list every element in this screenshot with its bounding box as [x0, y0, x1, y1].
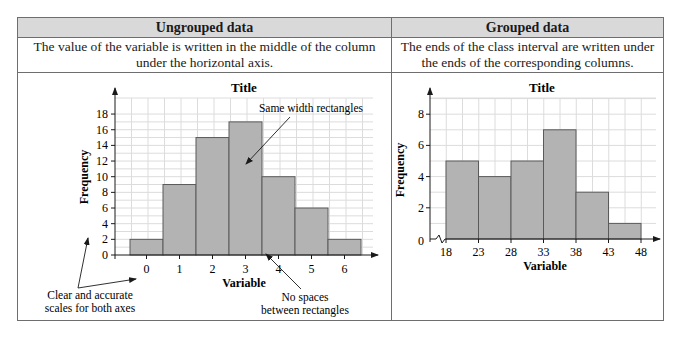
y-tick-label: 18 — [96, 107, 108, 121]
charts-canvas: Title0246810121416180123456VariableFrequ… — [0, 0, 679, 337]
histogram-bar — [576, 192, 609, 239]
x-tick-label: 48 — [635, 245, 647, 259]
annotation-scales-line2: scales for both axes — [45, 302, 136, 314]
y-axis-label: Frequency — [393, 143, 407, 197]
annotation-same-width: Same width rectangles — [259, 102, 364, 115]
y-tick-label: 0 — [418, 234, 424, 248]
y-tick-label: 12 — [96, 154, 108, 168]
x-axis-label: Variable — [222, 276, 266, 290]
x-tick-label: 28 — [505, 245, 517, 259]
x-tick-label: 38 — [570, 245, 582, 259]
annotation-arrow — [78, 279, 136, 288]
histogram-bar — [328, 239, 361, 255]
x-tick-label: 3 — [243, 262, 249, 276]
annotation-arrow — [78, 238, 88, 288]
x-tick-label: 43 — [603, 245, 615, 259]
annotation-no-spaces-line1: No spaces — [282, 291, 329, 304]
chart-title: Title — [529, 80, 555, 95]
y-tick-label: 16 — [96, 123, 108, 137]
annotation-arrow — [266, 254, 301, 289]
histogram-bar — [609, 223, 642, 239]
histogram-bar — [229, 122, 262, 255]
histogram-bar — [511, 161, 544, 239]
histogram-bar — [196, 138, 229, 255]
annotation-scales-line1: Clear and accurate — [47, 289, 133, 301]
histogram-bar — [544, 130, 577, 239]
y-tick-label: 14 — [96, 138, 108, 152]
grouped-histogram: Title0246818232833384348VariableFrequenc… — [393, 80, 660, 273]
x-tick-label: 1 — [177, 262, 183, 276]
y-tick-label: 0 — [102, 248, 108, 262]
histogram-bar — [479, 177, 512, 239]
y-tick-label: 2 — [102, 232, 108, 246]
x-tick-label: 2 — [210, 262, 216, 276]
annotation-no-spaces-line2: between rectangles — [261, 304, 349, 317]
histogram-bar — [295, 208, 328, 255]
x-tick-label: 5 — [309, 262, 315, 276]
y-tick-label: 6 — [418, 138, 424, 152]
y-tick-label: 4 — [102, 217, 108, 231]
histogram-bar — [262, 177, 295, 255]
y-tick-label: 2 — [418, 201, 424, 215]
histogram-bar — [130, 239, 163, 255]
x-tick-label: 0 — [144, 262, 150, 276]
histogram-bar — [446, 161, 479, 239]
y-axis-label: Frequency — [77, 150, 91, 204]
y-tick-label: 10 — [96, 170, 108, 184]
y-tick-label: 4 — [418, 170, 424, 184]
y-tick-label: 8 — [418, 107, 424, 121]
y-tick-label: 6 — [102, 201, 108, 215]
x-tick-label: 33 — [538, 245, 550, 259]
x-axis-label: Variable — [523, 259, 567, 273]
histogram-bar — [163, 185, 196, 255]
y-tick-label: 8 — [102, 185, 108, 199]
x-tick-label: 6 — [342, 262, 348, 276]
chart-title: Title — [231, 80, 257, 95]
x-tick-label: 23 — [473, 245, 485, 259]
x-tick-label: 18 — [440, 245, 452, 259]
